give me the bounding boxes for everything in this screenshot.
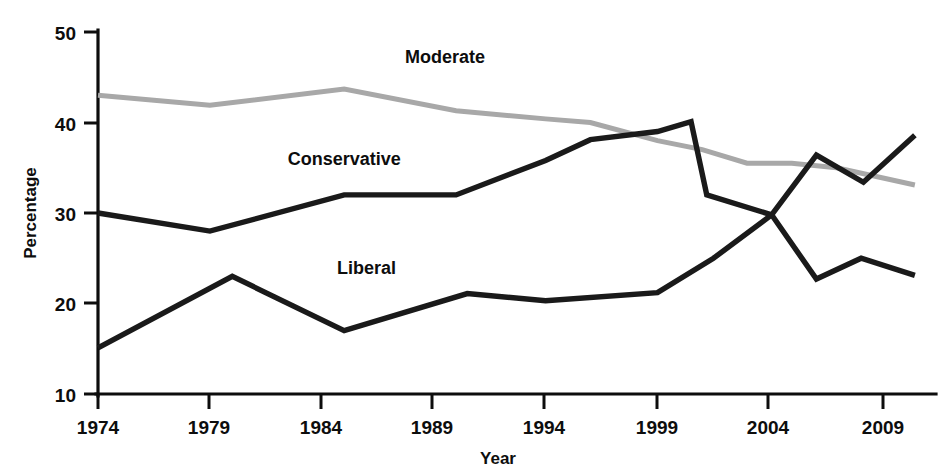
y-tick-label: 40 [55,114,76,135]
x-tick-label: 1994 [523,417,566,438]
x-tick-marks [98,394,883,409]
chart-figure: 50 40 30 20 10 1974 1979 1984 1989 1994 … [0,0,940,471]
series-layer [98,89,915,348]
x-tick-label: 1974 [77,417,120,438]
x-tick-label: 2004 [747,417,790,438]
x-tick-label: 1984 [300,417,343,438]
y-tick-label: 50 [55,23,76,44]
x-tick-label: 1979 [188,417,230,438]
series-label-moderate: Moderate [405,47,485,67]
series-line-moderate [98,89,915,185]
y-tick-label: 20 [55,294,76,315]
x-tick-label: 1999 [636,417,678,438]
y-tick-label: 30 [55,204,76,225]
series-label-conservative: Conservative [288,149,401,169]
x-tick-label: 1989 [411,417,453,438]
series-label-liberal: Liberal [337,258,396,278]
x-tick-labels: 1974 1979 1984 1989 1994 1999 2004 2009 [77,417,904,438]
series-line-conservative [98,122,915,279]
y-tick-label: 10 [55,385,76,406]
y-tick-marks [84,32,98,394]
series-label-layer: ModerateConservativeLiberal [288,47,485,278]
x-tick-label: 2009 [862,417,904,438]
y-axis-title: Percentage [21,167,40,259]
y-tick-labels: 50 40 30 20 10 [55,23,76,406]
x-axis-title: Year [480,449,516,468]
line-chart: 50 40 30 20 10 1974 1979 1984 1989 1994 … [0,0,940,471]
